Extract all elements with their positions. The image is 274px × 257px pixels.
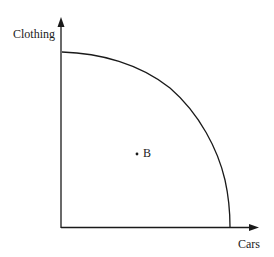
y-axis-label: Clothing <box>13 27 55 42</box>
point-b-marker <box>136 153 139 156</box>
frontier-curve <box>62 52 230 227</box>
y-axis <box>58 17 65 228</box>
x-axis-arrow-icon <box>249 224 259 231</box>
x-axis <box>61 224 259 231</box>
point-b-label: B <box>143 146 151 161</box>
x-axis-label: Cars <box>238 237 260 252</box>
y-axis-arrow-icon <box>58 17 65 27</box>
